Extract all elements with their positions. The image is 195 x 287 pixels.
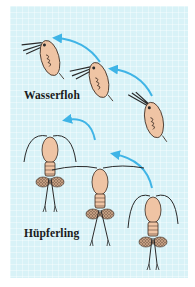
daphnia-1 bbox=[22, 36, 65, 87]
arrow-icon bbox=[112, 69, 152, 96]
label-copepod: Hüpferling bbox=[24, 227, 79, 239]
copepod-arrows bbox=[66, 119, 152, 188]
daphnia-2 bbox=[69, 60, 114, 110]
daphnia-3 bbox=[128, 88, 168, 148]
label-daphnia: Wasserfloh bbox=[24, 89, 80, 101]
swimming-motion-illustration bbox=[0, 0, 195, 287]
arrow-icon bbox=[114, 154, 152, 188]
copepod-1 bbox=[24, 136, 76, 212]
copepod-3 bbox=[128, 195, 178, 270]
arrow-icon bbox=[66, 119, 95, 140]
arrow-icon bbox=[56, 38, 100, 62]
